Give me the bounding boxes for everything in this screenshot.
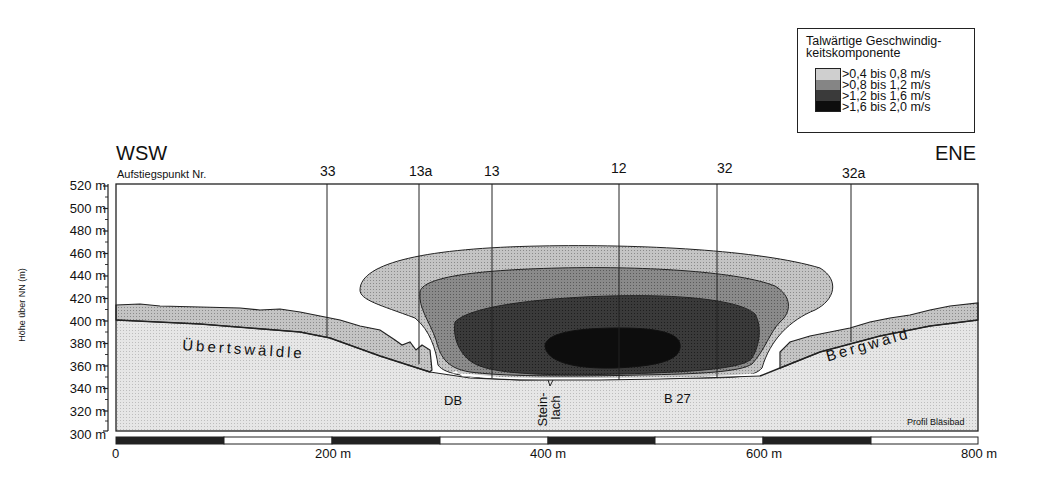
x-tick-200: 200 m (315, 446, 351, 461)
label-b27: B 27 (664, 391, 691, 406)
x-tick-400: 400 m (530, 446, 566, 461)
label-profile-name: Profil Bläsibad (907, 417, 965, 427)
label-steinlach: Stein- lach (534, 388, 568, 428)
x-tick-600: 600 m (746, 446, 782, 461)
label-db: DB (444, 393, 462, 408)
scale-bar (116, 437, 978, 444)
y-axis (103, 184, 108, 431)
label-steinlach-line2: lach (548, 396, 563, 420)
cross-section-plot (0, 0, 1042, 488)
zone-16-20 (545, 328, 680, 368)
x-tick-800: 800 m (961, 446, 997, 461)
x-tick-0: 0 (112, 446, 119, 461)
y-axis-major-ticks (103, 186, 108, 431)
